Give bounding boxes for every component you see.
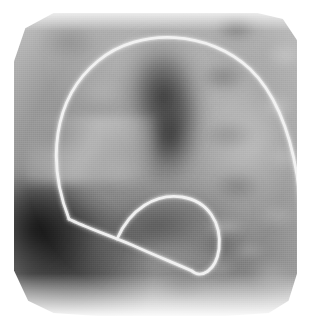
radiograph-viewport [0,0,310,334]
film-grain [14,13,297,316]
radiographic-field [14,13,297,316]
